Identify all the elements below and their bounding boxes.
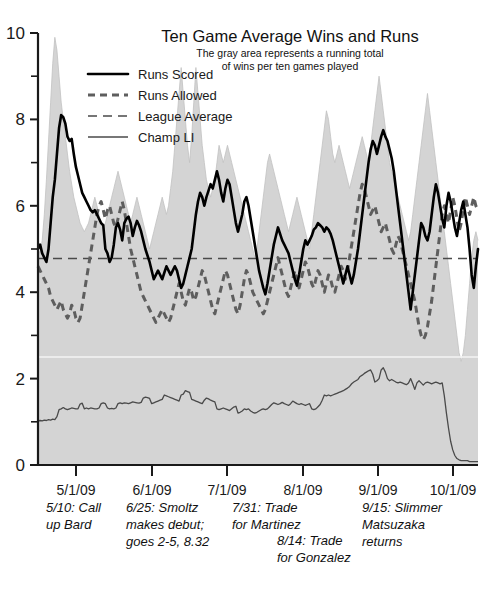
annotation-line: for Martinez <box>232 517 301 532</box>
x-tick-label: 8/1/09 <box>284 482 323 498</box>
y-tick-labels: 0246810 <box>6 24 25 475</box>
annotation-line: 5/10: Call <box>46 500 102 515</box>
annotation-line: Matsuzaka <box>362 517 425 532</box>
y-tick-label: 6 <box>16 197 25 216</box>
wins-running-total-area <box>38 37 478 465</box>
annotation-line: 7/31: Trade <box>232 500 298 515</box>
legend-item: Runs Allowed <box>88 88 217 103</box>
annotation-line: makes debut; <box>126 517 204 532</box>
y-tick-label: 10 <box>6 24 25 43</box>
annotation-line: 8/14: Trade <box>277 533 343 548</box>
annotation-line: returns <box>362 534 403 549</box>
annotation-line: goes 2-5, 8.32 <box>126 534 210 549</box>
y-tick-label: 4 <box>16 283 25 302</box>
legend-label: Runs Scored <box>138 67 213 82</box>
wins-area-layer <box>38 37 478 465</box>
annotation-line: for Gonzalez <box>277 550 351 565</box>
legend-item: Champ LI <box>88 130 194 145</box>
annotation-call-up-bard: 5/10: Callup Bard <box>46 500 102 532</box>
legend-label: Champ LI <box>138 130 194 145</box>
chart-title: Ten Game Average Wins and Runs <box>161 27 418 45</box>
annotation-matsuzaka-returns: 9/15: SlimmerMatsuzakareturns <box>362 500 443 549</box>
y-tick-label: 8 <box>16 110 25 129</box>
legend-item: Runs Scored <box>88 67 213 82</box>
x-tick-label: 6/1/09 <box>133 482 172 498</box>
legend-label: Runs Allowed <box>138 88 217 103</box>
ten-game-average-chart: 0246810 5/1/096/1/097/1/098/1/099/1/0910… <box>0 0 496 594</box>
annotation-trade-for-martinez: 7/31: Tradefor Martinez <box>232 500 301 532</box>
legend-item: League Average <box>88 109 232 124</box>
annotation-line: 6/25: Smoltz <box>126 500 199 515</box>
y-tick-label: 0 <box>16 456 25 475</box>
legend-label: League Average <box>138 109 232 124</box>
x-tick-labels: 5/1/096/1/097/1/098/1/099/1/0910/1/09 <box>57 482 477 498</box>
chart-subtitle-line-1: The gray area represents a running total <box>196 47 383 59</box>
annotation-smoltz-debut: 6/25: Smoltzmakes debut;goes 2-5, 8.32 <box>126 500 210 549</box>
chart-figure: 0246810 5/1/096/1/097/1/098/1/099/1/0910… <box>0 0 496 594</box>
x-tick-label: 9/1/09 <box>359 482 398 498</box>
x-tick-label: 5/1/09 <box>57 482 96 498</box>
chart-annotations: 5/10: Callup Bard6/25: Smoltzmakes debut… <box>46 500 443 565</box>
chart-legend: Runs ScoredRuns AllowedLeague AverageCha… <box>88 67 232 145</box>
x-tick-label: 10/1/09 <box>430 482 477 498</box>
annotation-line: up Bard <box>46 517 92 532</box>
annotation-trade-for-gonzalez: 8/14: Tradefor Gonzalez <box>277 533 351 565</box>
x-tick-label: 7/1/09 <box>208 482 247 498</box>
y-tick-label: 2 <box>16 370 25 389</box>
chart-subtitle-line-2: of wins per ten games played <box>222 60 359 72</box>
annotation-line: 9/15: Slimmer <box>362 500 443 515</box>
